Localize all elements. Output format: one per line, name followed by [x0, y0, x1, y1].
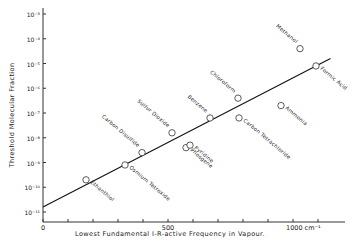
y-tick-label: 10⁻⁴	[27, 36, 41, 43]
y-tick-label: 10⁻⁷	[27, 110, 41, 117]
fit-line	[43, 59, 331, 208]
point-label: Sulfur Dioxide	[136, 98, 171, 129]
y-tick-label: 10⁻⁹	[27, 160, 41, 167]
point-label: Benzene	[187, 93, 210, 113]
data-point	[187, 142, 193, 148]
data-point	[207, 115, 213, 121]
point-label: Carbon Disulfide	[101, 113, 141, 148]
y-tick-label: 10⁻¹¹	[24, 209, 40, 216]
data-point	[122, 162, 128, 168]
y-tick-label: 10⁻⁶	[27, 85, 41, 92]
data-point	[313, 63, 319, 69]
x-tick-label: 0	[41, 224, 45, 232]
data-point	[278, 102, 284, 108]
point-label: Ethanthiol	[89, 179, 115, 203]
point-label: Formic Acid	[319, 65, 348, 91]
y-tick-label: 10⁻⁵	[27, 61, 41, 68]
chart: 10⁻³10⁻⁴10⁻⁵10⁻⁶10⁻⁷10⁻⁸10⁻⁹10⁻¹⁰10⁻¹¹05…	[0, 0, 359, 249]
scatter-plot: 10⁻³10⁻⁴10⁻⁵10⁻⁶10⁻⁷10⁻⁸10⁻⁹10⁻¹⁰10⁻¹¹05…	[0, 0, 359, 249]
data-point	[235, 95, 241, 101]
y-tick-label: 10⁻⁸	[27, 135, 41, 142]
data-point	[297, 45, 303, 51]
point-label: Ammonia	[284, 105, 308, 127]
data-point	[83, 177, 89, 183]
point-label: Carbon Tetrachloride	[242, 117, 292, 160]
x-tick-label: 1000 cm⁻¹	[286, 224, 321, 232]
y-axis-title: Threshold Molecular Fraction	[8, 63, 16, 169]
data-point	[236, 115, 242, 121]
y-tick-label: 10⁻¹⁰	[24, 184, 40, 191]
point-label: Chloroform	[209, 69, 237, 94]
data-point	[139, 149, 145, 155]
x-axis-title: Lowest Fundamental I-R-active Frequency …	[75, 230, 265, 238]
data-point	[169, 130, 175, 136]
y-tick-label: 10⁻³	[27, 11, 41, 18]
point-label: Methanol	[275, 23, 299, 45]
point-label: Osmium Tetroxide	[128, 164, 171, 202]
